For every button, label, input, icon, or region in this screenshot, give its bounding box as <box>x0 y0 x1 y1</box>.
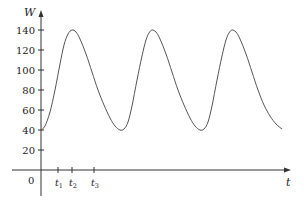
x-tick-label-t2: t2 <box>69 177 77 190</box>
y-tick-label: 60 <box>22 105 35 116</box>
y-tick-label: 140 <box>16 25 35 36</box>
y-tick-label: 20 <box>22 145 35 156</box>
y-tick-label: 40 <box>22 125 35 136</box>
x-tick-label-t1: t1 <box>55 177 63 190</box>
chart: W t 0 140 120 100 80 60 40 20 <box>0 0 304 202</box>
x-axis-title: t <box>286 176 291 189</box>
origin-label: 0 <box>28 175 34 186</box>
y-tick-label: 80 <box>22 85 35 96</box>
x-tick-label-t3: t3 <box>91 177 99 190</box>
data-curve <box>41 30 282 130</box>
y-tick-labels: 140 120 100 80 60 40 20 <box>16 25 35 156</box>
y-tick-label: 100 <box>16 65 35 76</box>
y-axis-title: W <box>24 6 37 19</box>
y-axis-arrow-icon <box>39 10 44 17</box>
x-tick-labels: t1 t2 t3 <box>55 177 99 190</box>
x-axis-arrow-icon <box>284 168 291 173</box>
y-tick-label: 120 <box>16 45 35 56</box>
